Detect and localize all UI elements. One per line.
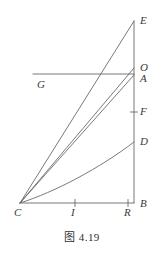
vertex-label-i: I xyxy=(71,207,75,218)
vertex-label-a: A xyxy=(140,73,147,84)
vertex-label-e: E xyxy=(140,15,147,26)
vertex-label-f: F xyxy=(140,106,147,117)
vertex-label-r: R xyxy=(124,207,131,218)
vertex-label-b: B xyxy=(140,198,147,209)
geometry-diagram xyxy=(0,0,164,261)
vertex-label-d: D xyxy=(140,136,148,147)
curve-segment-cd xyxy=(20,142,134,203)
ray-segment-ca xyxy=(20,75,134,203)
vertex-label-c: C xyxy=(14,207,21,218)
ray-segment-ce xyxy=(20,21,134,203)
figure-caption: 图 4.19 xyxy=(0,228,164,244)
vertex-label-g: G xyxy=(37,79,45,90)
figure-container: E O A G F D C I R B 图 4.19 xyxy=(0,0,164,261)
